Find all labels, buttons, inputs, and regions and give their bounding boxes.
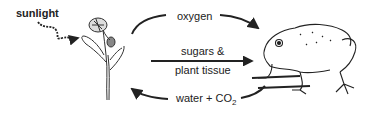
sugars-label-line1: sugars & [181,45,224,57]
water-co2-label: water + CO2 [176,92,236,109]
toad-icon [252,24,356,94]
oxygen-label: oxygen [177,10,212,22]
co2-subscript: 2 [232,98,236,107]
sugars-label-line2: plant tissue [175,64,231,76]
sunlight-label: sunlight [16,7,59,19]
plant-toad-cycle-diagram: sunlight oxygen sugars & plant tissue wa… [0,0,381,123]
plant-icon [82,18,124,100]
sunlight-arrow [38,22,78,39]
water-co2-text: water + CO [176,92,232,104]
